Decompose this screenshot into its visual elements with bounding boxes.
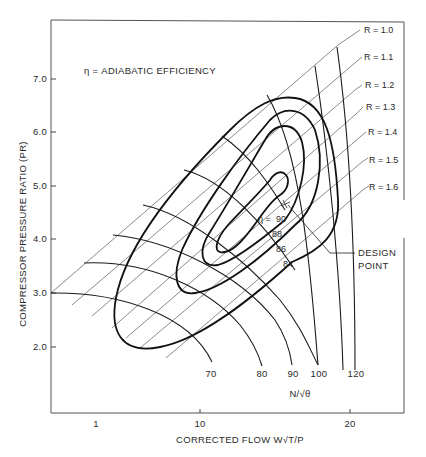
speed-lines: 70 80 90 100 120 N/√θ: [51, 47, 364, 399]
plot-frame: [51, 20, 404, 413]
compressor-map-chart: 7.0 6.0 5.0 4.0 3.0 2.0 COMPRESSOR PRESS…: [0, 0, 426, 457]
y-tick-2: 2.0: [33, 341, 47, 352]
y-axis-label: COMPRESSOR PRESSURE RATIO (PR): [17, 141, 28, 327]
speed-label-120: 120: [348, 368, 365, 379]
y-tick-4: 4.0: [33, 233, 47, 244]
y-tick-5: 5.0: [33, 180, 47, 191]
eff-label-84: 84: [283, 259, 293, 269]
speed-label-80: 80: [256, 368, 267, 379]
r-label-1-5: R = 1.5: [369, 155, 398, 165]
speed-label-100: 100: [311, 368, 328, 379]
eff-label-88: 88: [272, 229, 282, 239]
y-axis: 7.0 6.0 5.0 4.0 3.0 2.0 COMPRESSOR PRESS…: [17, 73, 56, 352]
efficiency-legend: η = ADIABATIC EFFICIENCY: [84, 65, 216, 76]
y-tick-3: 3.0: [33, 287, 47, 298]
design-point-label-1: DESIGN: [358, 247, 396, 258]
speed-axis-label: N/√θ: [289, 388, 310, 399]
x-axis-label: CORRECTED FLOW W√T/P: [176, 434, 304, 445]
x-tick-1: 1: [93, 418, 99, 429]
design-point-label-2: POINT: [358, 260, 389, 271]
x-tick-20: 20: [344, 418, 355, 429]
eff-label-90-value: 90: [276, 214, 286, 224]
r-label-1-2: R = 1.2: [365, 80, 394, 90]
r-label-1-0: R = 1.0: [364, 25, 393, 35]
r-label-1-1: R = 1.1: [364, 52, 393, 62]
r-label-1-6: R = 1.6: [369, 182, 398, 192]
r-label-1-3: R = 1.3: [366, 102, 395, 112]
r-label-1-4: R = 1.4: [368, 127, 397, 137]
x-tick-10: 10: [194, 418, 205, 429]
eff-label-86: 86: [276, 244, 286, 254]
speed-label-90: 90: [287, 368, 298, 379]
speed-label-70: 70: [205, 368, 216, 379]
y-tick-6: 6.0: [33, 126, 47, 137]
y-tick-7: 7.0: [33, 73, 47, 84]
eff-label-90: η =: [258, 214, 271, 224]
x-axis: 1 10 20 CORRECTED FLOW W√T/P: [93, 409, 355, 445]
